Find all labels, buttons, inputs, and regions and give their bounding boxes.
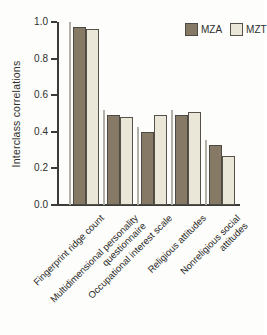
y-tick-label: 0.2 [20, 162, 48, 174]
scan-artifact-line [171, 110, 173, 205]
y-tick-label: 1.0 [20, 16, 48, 28]
legend-label-mzt: MZT [246, 23, 267, 36]
legend-label-mza: MZA [201, 23, 222, 36]
scan-artifact-line [205, 140, 207, 205]
scan-artifact-line [137, 127, 139, 205]
bar-mza-0 [73, 27, 86, 205]
bar-mzt-3 [188, 112, 201, 205]
y-tick [51, 204, 57, 206]
legend-swatch-mzt [230, 23, 243, 36]
bar-mza-2 [141, 132, 154, 205]
legend-swatch-mza [185, 23, 198, 36]
y-tick [51, 167, 57, 169]
y-tick [51, 131, 57, 133]
y-tick-label: 0.6 [20, 89, 48, 101]
y-tick [51, 94, 57, 96]
bar-mza-1 [107, 115, 120, 205]
y-tick-label: 0.4 [20, 126, 48, 138]
twin-correlations-figure: Interclass correlations MZA MZT 0.00.20.… [0, 0, 264, 335]
y-tick [51, 58, 57, 60]
bar-mzt-4 [222, 156, 235, 205]
bar-mza-4 [209, 145, 222, 205]
legend: MZA MZT [185, 23, 267, 36]
y-tick-label: 0.0 [20, 199, 48, 211]
bar-mzt-1 [120, 117, 133, 205]
scan-artifact-line [103, 110, 105, 205]
bar-mza-3 [175, 115, 188, 205]
bar-mzt-2 [154, 115, 167, 205]
bar-mzt-0 [86, 29, 99, 205]
y-tick [51, 21, 57, 23]
scan-artifact-line [69, 22, 71, 205]
y-tick-label: 0.8 [20, 53, 48, 65]
